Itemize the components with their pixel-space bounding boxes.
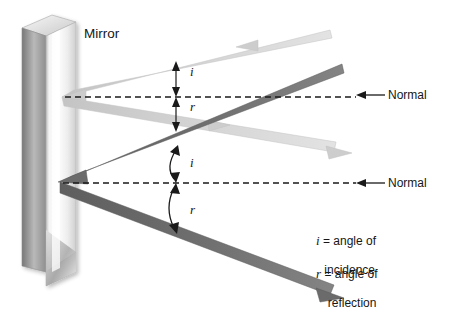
dark-incident-ray (58, 64, 344, 184)
light-reflected-arrowhead (326, 146, 352, 159)
normal-leader-top (356, 91, 385, 99)
angle-marker-incidence-bottom (170, 145, 180, 183)
mirror-label: Mirror (84, 26, 119, 42)
diagram-canvas (0, 0, 450, 316)
legend-reflection: r = angle of reflection (296, 252, 377, 310)
mirror-highlight (52, 30, 60, 272)
angle-label-reflection-top: r (190, 99, 195, 114)
normal-leader-bottom (356, 179, 385, 187)
angle-marker-incidence-top (172, 61, 180, 97)
light-incident-arrowhead-mid (236, 40, 258, 51)
legend-reflection-line1: angle of (335, 267, 378, 281)
angle-label-incidence-bottom: i (190, 155, 194, 170)
legend-reflection-equals: = (321, 267, 335, 281)
legend-incidence-line1: angle of (333, 234, 376, 248)
angle-label-incidence-top: i (190, 64, 194, 79)
mirror-object (22, 15, 76, 286)
light-reflected-ray (62, 97, 352, 159)
legend-incidence-equals: = (320, 234, 334, 248)
legend-reflection-line2: reflection (296, 296, 377, 310)
normal-label-bottom: Normal (388, 176, 427, 190)
mirror-left-edge (22, 28, 46, 272)
normal-label-top: Normal (388, 88, 427, 102)
angle-marker-reflection-top (172, 97, 180, 132)
angle-label-reflection-bottom: r (190, 202, 195, 217)
reflection-diagram: Mirror Normal Normal i r i r i = angle o… (0, 0, 450, 316)
